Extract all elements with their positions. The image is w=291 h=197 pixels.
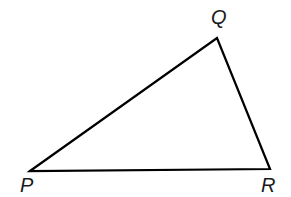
vertex-label-q: Q bbox=[211, 7, 227, 27]
figure-background bbox=[0, 0, 291, 197]
geometry-figure-triangle-pqr: P Q R bbox=[0, 0, 291, 197]
vertex-label-r: R bbox=[261, 175, 275, 195]
triangle-drawing bbox=[0, 0, 291, 197]
vertex-label-p: P bbox=[20, 175, 33, 195]
